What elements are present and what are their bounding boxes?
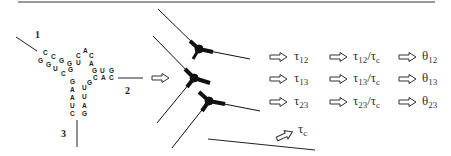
tree-model-1 bbox=[158, 9, 250, 59]
nucleotide: A bbox=[89, 61, 94, 68]
nucleotide: G bbox=[38, 58, 43, 65]
arm-label-1: 1 bbox=[35, 30, 40, 40]
nucleotide: A bbox=[83, 48, 88, 55]
nucleotide: A bbox=[70, 87, 75, 94]
nucleotide: U bbox=[76, 60, 81, 67]
tau-13-normalized: τ13/τc bbox=[353, 71, 380, 87]
arrow-icon-row2-b bbox=[330, 75, 347, 84]
nucleotide: U bbox=[70, 103, 75, 110]
arrow-icon-row3-c bbox=[399, 98, 416, 107]
tau-13: τ13 bbox=[294, 71, 308, 87]
arrow-icon-row3-a bbox=[270, 98, 287, 107]
nucleotide: U bbox=[82, 94, 87, 101]
arrow-icon-row1-c bbox=[399, 53, 416, 62]
arrow-icon-row2-c bbox=[399, 75, 416, 84]
nucleotide: G bbox=[82, 111, 87, 118]
hollow-arrow-icon bbox=[152, 74, 169, 83]
nucleotide: G bbox=[70, 79, 75, 86]
nucleotide: C bbox=[43, 50, 48, 57]
nucleotide: G bbox=[87, 80, 92, 87]
nucleotide: C bbox=[61, 71, 66, 78]
arrow-icon-row1-a bbox=[270, 53, 287, 62]
nucleotide: U bbox=[53, 66, 58, 73]
nucleotide: G bbox=[46, 62, 51, 69]
arrow-icon-row3-b bbox=[330, 98, 347, 107]
nucleotide: G bbox=[59, 58, 64, 65]
nucleotide: C bbox=[93, 75, 98, 82]
arm-label-3: 3 bbox=[61, 129, 66, 139]
tau-c-arrow-icon bbox=[275, 128, 294, 143]
theta-13: θ13 bbox=[422, 71, 437, 87]
tau-c: τc bbox=[298, 122, 307, 138]
nucleotide: C bbox=[51, 54, 56, 61]
nucleotide: C bbox=[89, 53, 94, 60]
arm1-stub bbox=[16, 37, 37, 51]
arrow-icon-row1-b bbox=[330, 53, 347, 62]
nucleotide: A bbox=[70, 95, 75, 102]
nucleotide: C bbox=[76, 53, 81, 60]
nucleotide: G bbox=[68, 67, 73, 74]
theta-23: θ23 bbox=[422, 94, 437, 110]
nucleotide: C bbox=[70, 111, 75, 118]
tau-12-normalized: τ12/τc bbox=[353, 49, 380, 65]
nucleotide: C bbox=[109, 75, 114, 82]
tau-12: τ12 bbox=[294, 49, 308, 65]
nucleotide: U bbox=[82, 85, 87, 92]
theta-12: θ12 bbox=[422, 49, 437, 65]
tau-c-reference-line bbox=[208, 139, 315, 150]
tau-23-normalized: τ23/τc bbox=[353, 94, 380, 110]
nucleotide: A bbox=[82, 103, 87, 110]
arrow-icon-row2-a bbox=[270, 75, 287, 84]
nucleotide: A bbox=[101, 75, 106, 82]
arm-label-2: 2 bbox=[125, 86, 130, 96]
diagram-canvas bbox=[0, 0, 451, 156]
tau-23: τ23 bbox=[294, 94, 308, 110]
